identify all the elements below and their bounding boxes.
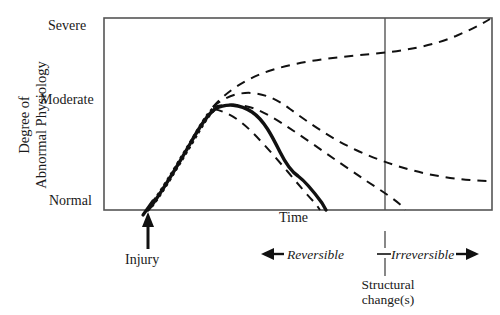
irreversible-arrow-icon [456,248,479,260]
y-tick-label-severe: Severe [48,19,86,33]
series-recovery-solid [148,105,326,210]
series-branch-delayed-recovery [214,109,320,210]
reversible-phase-label: Reversible [287,247,344,263]
injury-annotation-label: Injury [125,252,159,268]
series-branch-severe-ascending [213,19,490,107]
chart-canvas [0,0,500,315]
structural-change-annotation-label: Structural change(s) [336,277,440,307]
physiology-time-course-chart: Severe Moderate Normal Degree of Abnorma… [0,0,500,315]
reversible-arrow-icon [261,248,284,260]
series-branch-plateau-high [213,93,491,181]
y-tick-label-normal: Normal [49,194,92,208]
y-axis-title: Degree of Abnormal Physiology [16,30,50,220]
x-axis-title: Time [279,210,308,226]
series-branch-slow-decline [213,105,405,210]
irreversible-phase-label: Irreversible [391,247,454,263]
injury-arrow-icon [142,212,154,249]
plot-frame [104,18,492,210]
